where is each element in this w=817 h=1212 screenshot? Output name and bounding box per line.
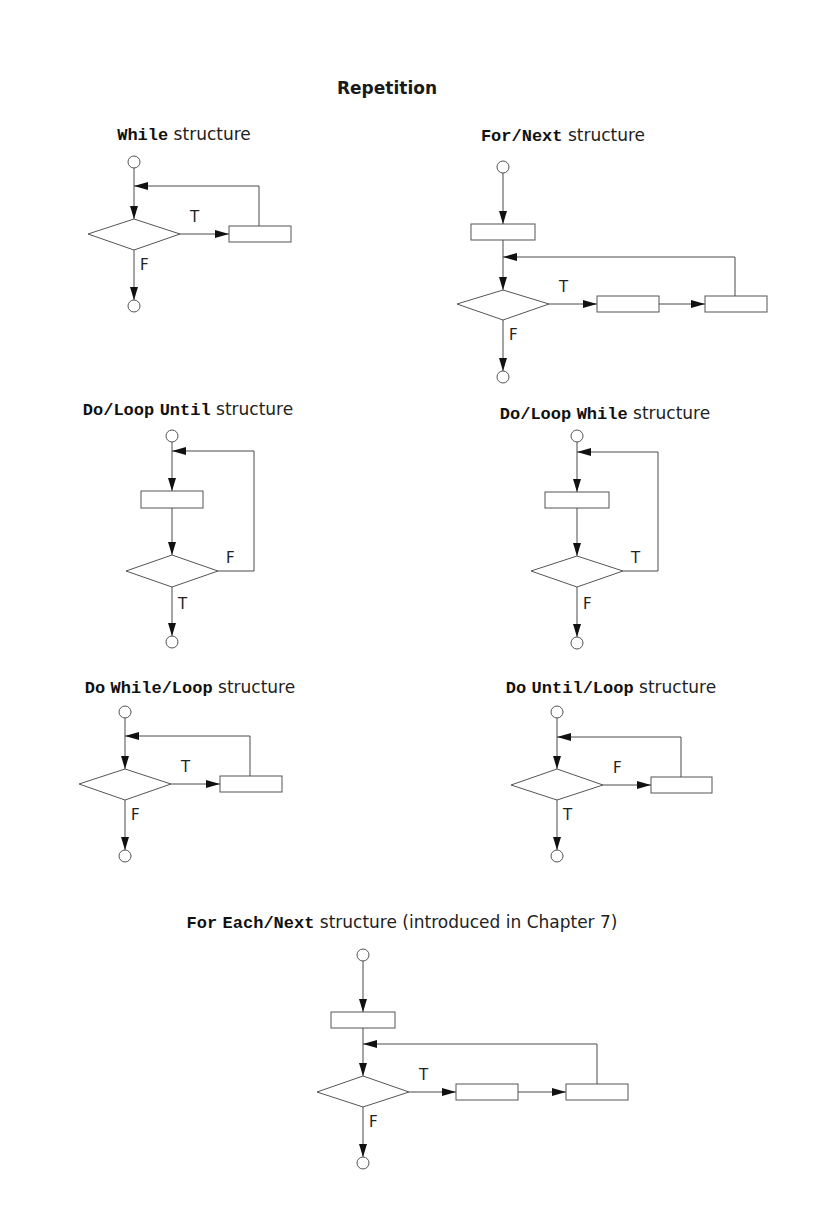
start-circle — [571, 430, 583, 442]
arrow-left-icon — [125, 732, 139, 740]
arrow-down-icon — [553, 756, 561, 769]
end-circle — [119, 850, 131, 862]
arrow-right-icon — [206, 780, 220, 788]
arrow-down-icon — [499, 358, 507, 371]
arrow-left-icon — [577, 448, 591, 456]
repetition-diagram: Repetition While structureTFFor/Next str… — [0, 0, 817, 1212]
branch-label: T — [418, 1066, 429, 1084]
arrow-right-icon — [691, 300, 705, 308]
keyword-text: For — [187, 914, 218, 933]
heading-text: structure — [634, 677, 717, 697]
branch-label: T — [558, 278, 569, 296]
action-box — [229, 226, 291, 242]
action-box — [705, 296, 767, 312]
arrow-down-icon — [359, 999, 367, 1012]
arrow-down-icon — [121, 837, 129, 850]
branch-label: T — [180, 758, 191, 776]
keyword-text: Next — [522, 127, 563, 146]
exit-label: F — [583, 595, 592, 613]
branch-label: F — [226, 549, 235, 567]
arrow-down-icon — [499, 277, 507, 290]
branch-label: F — [613, 759, 622, 777]
arrow-down-icon — [359, 1144, 367, 1157]
start-circle — [357, 949, 369, 961]
heading-text: structure — [168, 124, 251, 144]
end-circle — [551, 850, 563, 862]
structure-for-next: For/Next structureTF — [457, 125, 767, 383]
arrow-right-icon — [583, 300, 597, 308]
structure-heading: For Each/Next structure (introduced in C… — [187, 912, 618, 933]
keyword-text: Do — [83, 401, 103, 420]
arrow-right-icon — [552, 1088, 566, 1096]
keyword-text: For — [481, 127, 512, 146]
action-box — [141, 491, 203, 508]
exit-label: F — [509, 326, 518, 344]
branch-label: T — [630, 549, 641, 567]
keyword-text: Loop — [593, 679, 634, 698]
arrow-left-icon — [557, 733, 571, 741]
keyword-text: / — [520, 405, 530, 424]
keyword-text: While — [117, 126, 168, 145]
structure-heading: Do While/Loop structure — [85, 677, 295, 698]
arrow-down-icon — [573, 479, 581, 492]
exit-label: F — [369, 1113, 378, 1131]
heading-text: structure — [211, 399, 294, 419]
arrow-down-icon — [121, 756, 129, 769]
heading-text: structure (introduced in Chapter 7) — [314, 912, 617, 932]
init-action-box — [331, 1012, 395, 1028]
action-box — [220, 776, 282, 792]
action-box — [651, 777, 712, 793]
heading-text: structure — [563, 125, 646, 145]
structure-do-until-loop: Do Until/Loop structureFT — [506, 677, 716, 862]
decision-diamond — [88, 219, 180, 250]
structure-heading: Do Until/Loop structure — [506, 677, 716, 698]
keyword-text: While — [577, 405, 628, 424]
keyword-text: / — [512, 127, 522, 146]
branch-label: T — [189, 208, 200, 226]
end-circle — [571, 637, 583, 649]
start-circle — [166, 430, 178, 442]
arrow-right-icon — [442, 1088, 456, 1096]
diagram-title: Repetition — [337, 78, 437, 98]
action-box — [456, 1084, 518, 1100]
structure-do-loop-while: Do/Loop While structureTF — [500, 403, 710, 649]
start-circle — [497, 161, 509, 173]
keyword-text: Until — [532, 679, 583, 698]
start-circle — [128, 156, 140, 168]
keyword-text: While — [111, 679, 162, 698]
structure-heading: Do/Loop Until structure — [83, 399, 293, 420]
exit-label: T — [562, 806, 573, 824]
keyword-text: Do — [506, 679, 526, 698]
decision-diamond — [317, 1076, 409, 1107]
keyword-text: / — [103, 401, 113, 420]
keyword-text: Until — [160, 401, 211, 420]
start-circle — [551, 706, 563, 718]
arrow-right-icon — [637, 781, 651, 789]
structure-heading: While structure — [117, 124, 251, 145]
structure-do-loop-until: Do/Loop Until structureFT — [83, 399, 293, 648]
arrow-left-icon — [172, 447, 186, 455]
structure-heading: For/Next structure — [481, 125, 645, 146]
decision-diamond — [531, 556, 623, 587]
decision-diamond — [511, 769, 603, 800]
keyword-text: Loop — [530, 405, 571, 424]
decision-diamond — [457, 290, 549, 320]
arrow-left-icon — [363, 1040, 377, 1048]
arrow-left-icon — [503, 253, 517, 261]
arrow-down-icon — [573, 624, 581, 637]
arrow-down-icon — [553, 837, 561, 850]
keyword-text: / — [583, 679, 593, 698]
end-circle — [357, 1157, 369, 1169]
keyword-text: Do — [85, 679, 105, 698]
keyword-text: Next — [274, 914, 315, 933]
start-circle — [119, 706, 131, 718]
arrow-down-icon — [499, 211, 507, 224]
end-circle — [497, 371, 509, 383]
exit-label: T — [177, 595, 188, 613]
action-box — [566, 1084, 628, 1100]
end-circle — [128, 300, 140, 312]
keyword-text: Each — [223, 914, 264, 933]
structure-while: While structureTF — [88, 124, 291, 312]
arrow-down-icon — [359, 1063, 367, 1076]
keyword-text: / — [263, 914, 273, 933]
